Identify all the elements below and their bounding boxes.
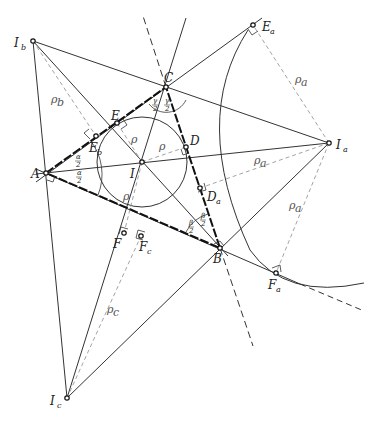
label-rho-c-sub: c: [113, 306, 119, 319]
label-da-sub: a: [216, 197, 221, 206]
gamma-half-right-den: 2: [164, 105, 170, 113]
point-eb: [94, 134, 98, 138]
label-rho-e: ρ: [130, 133, 138, 146]
beta-half-right-num: β: [200, 212, 205, 220]
label-c: C: [164, 71, 173, 85]
point-ea: [251, 23, 255, 27]
label-ia: I: [335, 138, 341, 152]
label-ib: I: [13, 36, 19, 50]
point-c: [164, 85, 168, 89]
label-ia-sub: a: [343, 145, 348, 154]
excircle-arc: [219, 30, 364, 287]
line-ib-ic: [33, 41, 67, 398]
alpha-half-top-num: α: [76, 153, 81, 161]
label-e: E: [110, 109, 120, 123]
label-f: F: [112, 237, 122, 251]
label-fc-sub: c: [147, 247, 152, 256]
line-bc-ext-down: [220, 248, 253, 346]
line-bc-ext-up: [143, 16, 166, 87]
label-rho-d: ρ: [158, 140, 166, 153]
label-d: D: [189, 134, 200, 148]
beta-half-right-den: 2: [200, 220, 206, 228]
alpha-half-top-den: 2: [75, 161, 81, 169]
point-ia: [327, 141, 331, 145]
line-ib-ia: [33, 41, 329, 143]
label-rho-a3-sub: a: [295, 202, 302, 215]
point-b: [218, 246, 222, 250]
bisector-b: [33, 41, 228, 256]
point-ib: [31, 39, 35, 43]
point-d: [184, 145, 188, 149]
point-ic: [65, 396, 69, 400]
label-b: B: [212, 252, 222, 266]
point-fa: [274, 271, 278, 275]
label-rho-a1-sub: a: [301, 76, 308, 89]
label-ic-sub: c: [57, 401, 62, 410]
beta-half-left-num: β: [188, 219, 193, 227]
line-fa-dashed: [300, 284, 364, 311]
label-ea-sub: a: [270, 27, 275, 36]
label-i: I: [129, 167, 135, 181]
point-i: [140, 160, 144, 164]
alpha-half-bot-num: α: [77, 169, 82, 177]
radius-ib-eb: [33, 41, 96, 136]
radius-i-e: [117, 123, 142, 162]
beta-half-left-den: 2: [188, 227, 194, 235]
gamma-half-left-den: 2: [152, 105, 158, 113]
radius-ic-fc: [67, 236, 141, 398]
alpha-half-bot-den: 2: [76, 177, 82, 185]
point-da: [198, 186, 202, 190]
point-f: [122, 231, 126, 235]
label-fa-sub: a: [276, 285, 281, 294]
label-rho-a2-sub: a: [260, 157, 267, 170]
geometry-diagram: A B C I I a I b I c D E F D a E a F a E …: [0, 0, 384, 421]
gamma-half-left-num: γ: [153, 97, 158, 105]
label-ib-sub: b: [21, 43, 26, 52]
point-fc: [139, 234, 143, 238]
label-eb-sub: b: [97, 148, 102, 157]
label-rho-b-sub: b: [57, 96, 64, 109]
radius-ia-ea: [253, 25, 329, 143]
label-ic: I: [49, 394, 55, 408]
points: [31, 23, 331, 400]
point-a: [44, 171, 48, 175]
radius-ia-fa: [276, 143, 329, 273]
label-a: A: [30, 167, 40, 181]
label-rho-f: ρ: [122, 190, 130, 203]
